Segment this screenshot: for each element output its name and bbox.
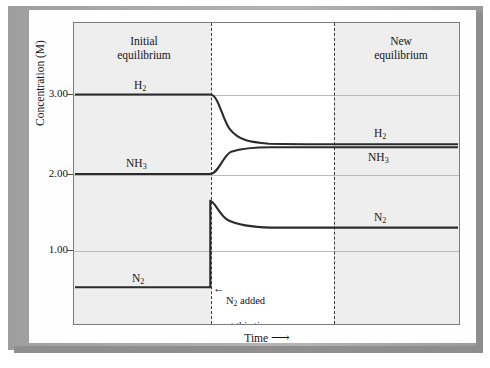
x-axis-arrow-icon: ⟶ [271, 330, 289, 345]
equilibrium-concentration-figure: Concentration (M) 3.00 2.00 1.00 Initial… [0, 0, 490, 368]
curve-h2 [75, 95, 458, 145]
series-label-h2-final-sub: 2 [382, 132, 386, 141]
n2-added-line1-pre: N [226, 295, 234, 306]
plot-area: Initial equilibrium New equilibrium H2 N… [73, 22, 460, 325]
x-axis-label: Time ⟶ [73, 330, 460, 346]
n2-added-line1-sub: 2 [234, 299, 238, 308]
series-label-nh3-final-text: NH [368, 151, 385, 163]
series-label-n2-final-sub: 2 [382, 216, 386, 225]
series-label-nh3-final-sub: 3 [385, 156, 389, 165]
series-label-h2-initial-sub: 2 [142, 84, 146, 93]
n2-added-annotation: N2 added at this time [226, 282, 273, 325]
series-label-nh3-initial: NH3 [126, 157, 147, 169]
series-label-n2-final: N2 [374, 211, 386, 223]
series-label-nh3-final: NH3 [368, 151, 389, 163]
series-label-h2-initial: H2 [134, 79, 146, 91]
y-tick-label-1: 1.00 [28, 243, 68, 255]
series-label-nh3-initial-text: NH [126, 157, 143, 169]
n2-added-line2: at this time [226, 320, 273, 325]
y-tick-label-3: 3.00 [28, 87, 68, 99]
x-axis-label-text: Time [244, 332, 268, 344]
n2-added-line1-post: added [237, 295, 265, 306]
y-axis-label: Concentration (M) [34, 40, 46, 126]
y-tick-label-2: 2.00 [28, 167, 68, 179]
series-label-n2-initial-sub: 2 [140, 277, 144, 286]
series-label-h2-final: H2 [374, 127, 386, 139]
series-label-n2-initial: N2 [132, 272, 144, 284]
n2-added-arrow: ← [213, 281, 225, 296]
figure-shadow-right [476, 12, 483, 352]
series-label-nh3-initial-sub: 3 [143, 162, 147, 171]
figure-shadow-bottom [14, 346, 483, 353]
